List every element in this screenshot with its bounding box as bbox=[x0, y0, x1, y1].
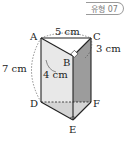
measure-AB: 4 cm bbox=[43, 69, 68, 80]
vertex-C: C bbox=[93, 31, 101, 42]
vertex-B: B bbox=[63, 57, 70, 68]
vertex-E: E bbox=[69, 124, 76, 135]
face-DEF bbox=[41, 102, 91, 120]
vertex-D: D bbox=[30, 98, 38, 109]
measure-height: 7 cm bbox=[2, 63, 27, 74]
measure-AC: 5 cm bbox=[55, 26, 80, 37]
vertex-A: A bbox=[29, 31, 38, 42]
vertex-F: F bbox=[93, 98, 100, 109]
measure-BC: 3 cm bbox=[96, 43, 121, 54]
prism-diagram: A C B D F E 5 cm 3 cm 4 cm 7 cm bbox=[0, 0, 128, 149]
